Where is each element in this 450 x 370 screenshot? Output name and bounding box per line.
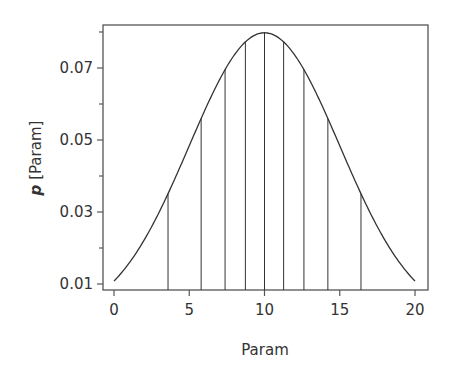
x-tick-label: 10 — [255, 301, 274, 319]
x-tick-label: 15 — [330, 301, 349, 319]
decile-lines — [168, 33, 361, 290]
x-tick-label: 20 — [405, 301, 424, 319]
y-tick-label: 0.05 — [60, 131, 93, 149]
x-axis-label: Param — [241, 341, 289, 359]
density-chart: 0.010.030.050.07 05101520 Param p [Param… — [0, 0, 450, 370]
y-axis-label: p [Param] — [27, 121, 45, 197]
x-tick-label: 0 — [109, 301, 119, 319]
y-tick-label: 0.03 — [60, 203, 93, 221]
plot-frame — [103, 25, 428, 290]
y-tick-label: 0.07 — [60, 59, 93, 77]
y-axis: 0.010.030.050.07 — [60, 32, 103, 293]
y-tick-label: 0.01 — [60, 275, 93, 293]
x-tick-label: 5 — [184, 301, 194, 319]
x-axis: 05101520 — [109, 290, 424, 319]
